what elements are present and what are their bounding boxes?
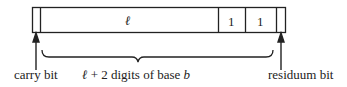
digits-label: ℓ + 2 digits of base b <box>82 68 190 81</box>
main-cell-label: ℓ <box>125 14 130 27</box>
carry-arrowhead <box>33 33 39 42</box>
residuum-arrowhead <box>278 33 284 42</box>
residuum-bit-label: residuum bit <box>268 68 333 81</box>
brace <box>42 50 273 62</box>
register-outline <box>33 8 286 33</box>
digit-cell-1-label: 1 <box>228 15 235 28</box>
digits-base: b <box>184 67 191 82</box>
digits-text: + 2 digits of base <box>87 67 183 82</box>
carry-bit-label: carry bit <box>14 68 58 81</box>
digit-cell-2-label: 1 <box>257 15 264 28</box>
